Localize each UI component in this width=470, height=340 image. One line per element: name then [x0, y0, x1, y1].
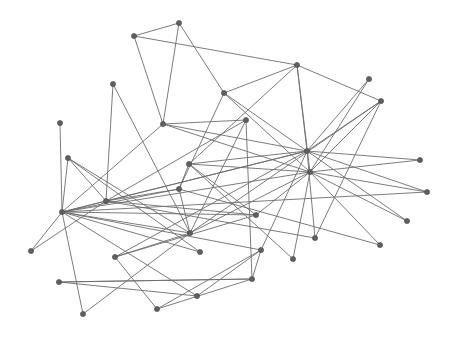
graph-node[interactable] [377, 242, 382, 247]
graph-node[interactable] [417, 157, 422, 162]
graph-edge [293, 172, 310, 259]
graph-edge [115, 257, 157, 309]
graph-node[interactable] [366, 76, 371, 81]
graph-node[interactable] [258, 247, 263, 252]
graph-node[interactable] [424, 189, 429, 194]
graph-edge [134, 36, 163, 124]
graph-edge [62, 212, 200, 252]
graph-edge [60, 123, 62, 212]
graph-edge [62, 158, 68, 212]
graph-edge [246, 120, 252, 279]
graph-edge [315, 101, 381, 238]
graph-edge [179, 23, 224, 93]
graph-node[interactable] [65, 155, 70, 160]
nodes-layer [28, 20, 429, 316]
graph-node[interactable] [187, 230, 192, 235]
graph-node[interactable] [56, 279, 61, 284]
graph-edge [179, 189, 190, 233]
graph-node[interactable] [186, 161, 191, 166]
graph-edge [163, 23, 179, 124]
graph-node[interactable] [160, 121, 165, 126]
graph-node[interactable] [253, 212, 258, 217]
network-graph-canvas [0, 0, 470, 340]
graph-edge [62, 212, 190, 233]
graph-node[interactable] [176, 186, 181, 191]
graph-node[interactable] [194, 293, 199, 298]
graph-node[interactable] [243, 117, 248, 122]
graph-edge [59, 282, 197, 296]
graph-edge [59, 279, 252, 282]
graph-edge [106, 151, 307, 201]
graph-node[interactable] [28, 248, 33, 253]
graph-edge [224, 93, 310, 172]
graph-node[interactable] [80, 311, 85, 316]
graph-edge [179, 189, 380, 245]
graph-edge [68, 158, 106, 201]
graph-edge [307, 151, 427, 192]
graph-node[interactable] [57, 120, 62, 125]
graph-node[interactable] [112, 254, 117, 259]
graph-edge [310, 172, 407, 221]
graph-edge [310, 101, 381, 172]
edges-layer [31, 23, 427, 314]
graph-node[interactable] [103, 198, 108, 203]
graph-node[interactable] [59, 209, 64, 214]
graph-edge [310, 160, 420, 172]
graph-edge [31, 212, 62, 251]
graph-node[interactable] [378, 98, 383, 103]
graph-edge [163, 124, 307, 151]
graph-node[interactable] [221, 90, 226, 95]
graph-node[interactable] [294, 62, 299, 67]
graph-edge [134, 36, 297, 65]
graph-edge [189, 164, 293, 259]
graph-edge [189, 65, 297, 164]
graph-edge [310, 172, 380, 245]
graph-edge [310, 79, 369, 172]
graph-node[interactable] [131, 33, 136, 38]
graph-edge [106, 201, 315, 238]
graph-node[interactable] [249, 276, 254, 281]
graph-node[interactable] [197, 249, 202, 254]
graph-node[interactable] [304, 148, 309, 153]
graph-node[interactable] [154, 306, 159, 311]
graph-edge [297, 65, 381, 101]
graph-edge [224, 93, 307, 151]
graph-edge [224, 65, 297, 93]
graph-node[interactable] [290, 256, 295, 261]
graph-node[interactable] [307, 169, 312, 174]
graph-edge [179, 164, 189, 189]
graph-edge [163, 124, 310, 172]
graph-edge [310, 172, 427, 192]
graph-node[interactable] [404, 218, 409, 223]
graph-edge [134, 23, 179, 36]
graph-node[interactable] [176, 20, 181, 25]
graph-node[interactable] [110, 81, 115, 86]
graph-node[interactable] [312, 235, 317, 240]
graph-edge [179, 93, 224, 189]
graph-edge [157, 279, 252, 309]
graph-edge [62, 212, 83, 314]
graph-edge [256, 172, 310, 215]
graph-edge [113, 84, 190, 233]
